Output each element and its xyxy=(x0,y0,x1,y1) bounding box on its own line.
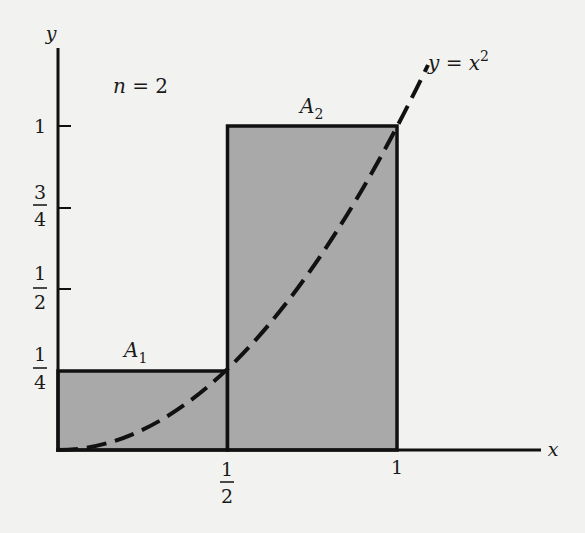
y-tick-label-3-4: 3 4 xyxy=(33,181,47,230)
y-tick-label-1-2: 1 2 xyxy=(33,262,47,313)
svg-text:1: 1 xyxy=(34,343,46,365)
svg-text:1: 1 xyxy=(221,458,233,480)
x-tick-label-1: 1 xyxy=(391,456,403,478)
svg-text:4: 4 xyxy=(34,208,46,230)
curve-label: y = x2 xyxy=(427,48,489,75)
y-tick-label-1: 1 xyxy=(34,115,46,137)
rect-label-a2: A2 xyxy=(298,94,323,122)
x-tick-label-1-2: 1 2 xyxy=(220,458,234,507)
rect-label-a1: A1 xyxy=(122,338,147,366)
y-axis-label: y xyxy=(45,22,57,44)
rectangle-a1 xyxy=(58,371,228,450)
riemann-sum-diagram: y x n = 2 y = x2 A1 A2 1 3 4 1 2 1 xyxy=(0,0,585,533)
y-tick-label-1-4: 1 4 xyxy=(33,343,47,393)
svg-text:4: 4 xyxy=(34,371,46,393)
svg-text:1: 1 xyxy=(34,262,46,284)
svg-text:3: 3 xyxy=(34,181,46,203)
svg-text:2: 2 xyxy=(34,291,46,313)
n-label: n = 2 xyxy=(113,74,168,98)
svg-text:2: 2 xyxy=(221,485,233,507)
x-axis-label: x xyxy=(548,438,559,460)
